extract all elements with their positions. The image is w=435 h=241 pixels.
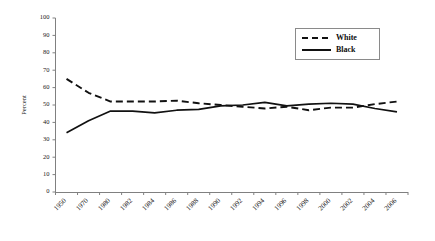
- x-tick-label: 1970: [74, 196, 90, 212]
- x-tick-label: 1992: [229, 196, 245, 212]
- x-tick-labels: 1950197019801982198419861988199019921994…: [52, 196, 398, 212]
- x-tick-label: 1982: [118, 196, 134, 212]
- y-tick-label: 90: [43, 31, 50, 38]
- plot-area: 0102030405060708090100 19501970198019821…: [0, 0, 435, 241]
- x-tick-label: 2000: [317, 196, 333, 212]
- y-tick-label: 50: [43, 100, 50, 107]
- y-tick-label: 20: [43, 153, 50, 160]
- chart-container: 0102030405060708090100 19501970198019821…: [0, 0, 435, 241]
- x-tick-label: 1994: [251, 196, 267, 212]
- y-tick-labels: 0102030405060708090100: [40, 13, 50, 194]
- legend-label-white: White: [336, 33, 357, 42]
- x-tick-label: 1996: [273, 196, 289, 212]
- y-tick-label: 40: [43, 118, 50, 125]
- x-tick-label: 1980: [96, 196, 112, 212]
- y-tick-label: 10: [43, 170, 50, 177]
- x-tick-label: 1984: [140, 196, 156, 212]
- y-tick-label: 80: [43, 48, 50, 55]
- x-tick-label: 2006: [383, 196, 399, 212]
- y-tick-label: 30: [43, 135, 50, 142]
- x-tick-label: 1998: [295, 196, 311, 212]
- line-chart-svg: 0102030405060708090100 19501970198019821…: [0, 0, 435, 241]
- y-tick-label: 0: [46, 187, 49, 194]
- y-axis-title: Percent: [20, 95, 27, 115]
- y-tick-label: 60: [43, 83, 50, 90]
- y-tick-label: 100: [40, 13, 50, 20]
- x-tick-label: 2004: [361, 196, 377, 212]
- x-tick-label: 1986: [163, 196, 179, 212]
- x-tick-label: 1950: [52, 196, 68, 212]
- x-tick-label: 2002: [339, 196, 355, 212]
- legend-label-black: Black: [336, 45, 356, 54]
- x-tick-label: 1990: [207, 196, 223, 212]
- y-tick-label: 70: [43, 66, 50, 73]
- legend: White Black: [296, 29, 380, 60]
- x-tick-label: 1988: [185, 196, 201, 212]
